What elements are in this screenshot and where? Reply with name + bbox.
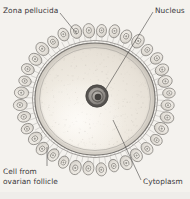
label-cell-from-ovarian-follicle: Cell from ovarian follicle [3, 167, 58, 186]
follicle-cell [18, 75, 33, 88]
follicle-cell [108, 24, 122, 39]
follicle-cell [96, 24, 107, 37]
follicle-cell [96, 162, 108, 176]
label-cell-follicle-line2: ovarian follicle [3, 177, 58, 187]
nucleolus [95, 94, 102, 101]
label-zona-pellucida: Zona pellucida [3, 6, 58, 16]
figure-canvas: Zona pellucida Nucleus Cytoplasm Cell fr… [0, 0, 190, 199]
label-nucleus: Nucleus [155, 6, 185, 16]
follicle-cell [16, 110, 31, 124]
label-cell-follicle-line1: Cell from [3, 167, 37, 176]
follicle-cell [13, 99, 28, 111]
follicle-cell [82, 161, 94, 176]
follicle-cell [68, 159, 83, 176]
follicle-cell [162, 88, 175, 99]
follicle-cell [69, 23, 83, 39]
follicle-cell [56, 26, 71, 42]
follicle-cell [107, 158, 120, 173]
follicle-cell [157, 74, 174, 89]
follicle-cell [14, 86, 29, 99]
follicle-cell [161, 99, 175, 111]
label-cytoplasm: Cytoplasm [143, 177, 183, 187]
bottom-strip [0, 192, 190, 199]
